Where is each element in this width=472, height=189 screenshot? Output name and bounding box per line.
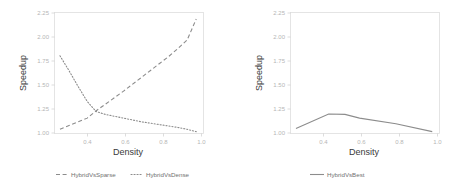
x-axis-title: Density (349, 147, 380, 157)
legend: HybridVsSparse HybridVsDense (56, 171, 190, 178)
series-line-hybridvssparse (60, 19, 196, 129)
x-tick-label: 0.6 (357, 139, 366, 145)
chart-panel-left: 2.25 2.00 1.75 1.50 1.25 1.00 0.4 0.6 0.… (0, 0, 236, 189)
y-tick-label: 2.00 (273, 34, 285, 40)
x-tick-label: 0.8 (395, 139, 404, 145)
y-tick-label: 1.00 (273, 130, 285, 136)
x-tick-label: 1.0 (433, 139, 442, 145)
y-tick-label: 1.75 (273, 58, 285, 64)
y-tick-label: 1.50 (37, 82, 49, 88)
y-tick-label: 2.25 (273, 10, 285, 16)
figure-container: 2.25 2.00 1.75 1.50 1.25 1.00 0.4 0.6 0.… (0, 0, 472, 189)
y-tickmarks (52, 13, 55, 133)
x-tickmarks (88, 134, 202, 137)
y-tick-label: 1.00 (37, 130, 49, 136)
y-tick-label: 1.50 (273, 82, 285, 88)
y-tick-label: 2.25 (37, 10, 49, 16)
y-axis-title: Speedup (18, 55, 28, 91)
y-axis-title: Speedup (254, 55, 264, 91)
y-tick-label: 1.75 (37, 58, 49, 64)
left-panel-svg: 2.25 2.00 1.75 1.50 1.25 1.00 0.4 0.6 0.… (0, 0, 236, 189)
x-tick-label: 0.4 (83, 139, 92, 145)
legend-label-hybridvsdense: HybridVsDense (146, 171, 190, 178)
x-tick-label: 1.0 (197, 139, 206, 145)
series-line-hybridvsdense (60, 56, 196, 132)
chart-panel-right: 2.25 2.00 1.75 1.50 1.25 1.00 0.4 0.6 0.… (236, 0, 472, 189)
series-line-hybridvsbest (296, 114, 432, 132)
x-tick-label: 0.6 (121, 139, 130, 145)
y-tick-label: 2.00 (37, 34, 49, 40)
legend-label-hybridvssparse: HybridVsSparse (71, 171, 116, 178)
legend: HybridVsBest (310, 171, 365, 178)
legend-label-hybridvsbest: HybridVsBest (327, 171, 365, 178)
y-tick-label: 1.25 (273, 106, 285, 112)
y-tickmarks (288, 13, 291, 133)
x-tick-label: 0.8 (159, 139, 168, 145)
right-panel-svg: 2.25 2.00 1.75 1.50 1.25 1.00 0.4 0.6 0.… (236, 0, 472, 189)
x-tick-label: 0.4 (319, 139, 328, 145)
y-tick-label: 1.25 (37, 106, 49, 112)
x-axis-title: Density (113, 147, 144, 157)
plot-frame (291, 13, 440, 134)
x-tickmarks (324, 134, 438, 137)
plot-frame (55, 13, 204, 134)
